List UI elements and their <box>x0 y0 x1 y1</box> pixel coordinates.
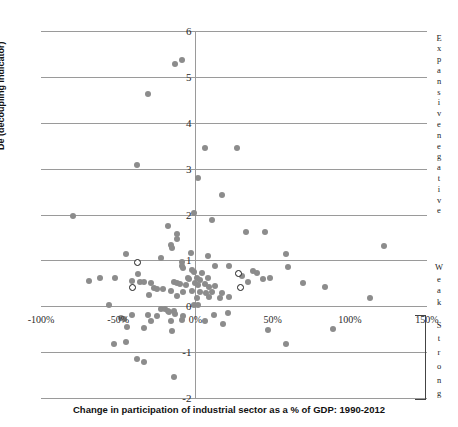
x-tick-label-100%: 100% <box>320 315 380 325</box>
data-point <box>145 91 151 97</box>
data-point <box>195 302 201 308</box>
gridline-y-0 <box>41 306 427 307</box>
x-tick-label--50%: -50% <box>88 315 148 325</box>
data-point <box>225 310 231 316</box>
data-point <box>245 279 251 285</box>
y-tick-label-1: 1 <box>161 255 191 266</box>
data-point <box>195 175 201 181</box>
zone-label-char: k <box>428 297 450 308</box>
data-point <box>135 271 141 277</box>
data-point <box>226 294 232 300</box>
data-point <box>165 223 171 229</box>
x-tick-label-0%: 0% <box>165 315 225 325</box>
data-point <box>254 270 260 276</box>
gridline-y-1 <box>41 260 427 261</box>
zone-label-char: v <box>428 108 450 119</box>
data-point <box>177 281 183 287</box>
zone-label-char: S <box>428 319 450 333</box>
data-point <box>367 295 373 301</box>
data-point <box>191 269 197 275</box>
data-point <box>260 276 266 282</box>
data-point <box>186 276 192 282</box>
zone-label-char: i <box>428 97 450 108</box>
y-tick-label--2: -2 <box>161 393 191 404</box>
x-tick-label--100%: -100% <box>11 315 71 325</box>
strong-zone-bracket <box>415 315 426 400</box>
data-point <box>154 313 160 319</box>
gridline-y-2 <box>41 215 427 216</box>
gridline-y-6 <box>41 31 427 32</box>
zone-label-char: o <box>428 360 450 374</box>
x-tick-label-50%: 50% <box>243 315 303 325</box>
gridline-y-4 <box>41 123 427 124</box>
data-point <box>146 292 152 298</box>
data-point <box>172 61 178 67</box>
zone-label-char: x <box>428 43 450 54</box>
gridline-y-3 <box>41 169 427 170</box>
data-point <box>141 279 147 285</box>
zone-label-char: p <box>428 54 450 65</box>
data-point <box>205 253 211 259</box>
data-point <box>330 326 336 332</box>
data-point <box>283 341 289 347</box>
data-point <box>179 57 185 63</box>
zone-label-char: n <box>428 130 450 141</box>
data-point <box>300 280 306 286</box>
data-point <box>112 275 118 281</box>
zone-label-expansive-negative: Expansivenegative <box>428 33 450 217</box>
zone-label-char: E <box>428 33 450 44</box>
y-tick-label-5: 5 <box>161 72 191 83</box>
zone-label-char: v <box>428 195 450 206</box>
data-point <box>106 302 112 308</box>
data-point <box>267 275 273 281</box>
data-point <box>129 284 136 291</box>
data-point <box>209 217 215 223</box>
data-point <box>154 286 160 292</box>
data-point <box>189 288 195 294</box>
data-point <box>70 213 76 219</box>
zone-label-char: a <box>428 162 450 173</box>
data-point <box>265 327 271 333</box>
data-point <box>322 284 328 290</box>
zone-label-char: s <box>428 87 450 98</box>
zone-label-char: e <box>428 141 450 152</box>
data-point <box>194 295 200 301</box>
zone-label-char: i <box>428 184 450 195</box>
gridline-y--1 <box>41 352 427 353</box>
data-point <box>123 251 129 257</box>
data-point <box>171 374 177 380</box>
gridline-y-5 <box>41 77 427 78</box>
zone-label-char: n <box>428 76 450 87</box>
y-tick-label-3: 3 <box>161 164 191 175</box>
zone-label-char: W <box>428 262 450 273</box>
data-point <box>134 259 141 266</box>
zone-label-char: a <box>428 285 450 296</box>
zone-label-weak: Weak <box>428 262 450 308</box>
zone-label-char: t <box>428 332 450 346</box>
y-tick-label-4: 4 <box>161 118 191 129</box>
data-point <box>217 295 223 301</box>
data-point <box>219 192 225 198</box>
data-point <box>202 145 208 151</box>
data-point <box>174 293 180 299</box>
data-point <box>97 275 103 281</box>
gridline-y--2 <box>41 398 427 399</box>
data-point <box>123 339 129 345</box>
data-point <box>183 282 189 288</box>
data-point <box>169 245 175 251</box>
zone-label-strong: Strong <box>428 319 450 402</box>
data-point <box>160 286 166 292</box>
data-point <box>191 210 197 216</box>
zone-label-char: g <box>428 387 450 401</box>
data-point <box>381 243 387 249</box>
data-point <box>212 263 218 269</box>
zone-label-char: n <box>428 374 450 388</box>
scatter-chart: De (decoupling indicator) -2-10123456 -1… <box>0 0 458 427</box>
data-point <box>141 359 147 365</box>
zone-label-char: e <box>428 119 450 130</box>
y-tick-label-2: 2 <box>161 210 191 221</box>
data-point <box>262 229 268 235</box>
data-point <box>134 356 140 362</box>
zone-label-char: a <box>428 65 450 76</box>
plot-area <box>41 31 427 398</box>
